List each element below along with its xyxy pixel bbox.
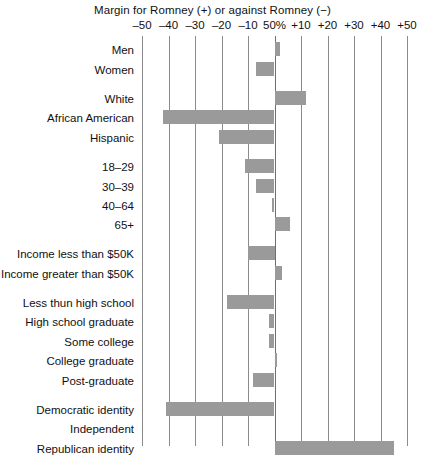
row-label: Post-graduate [62, 375, 134, 387]
row-label: Independent [70, 423, 134, 435]
bar [275, 441, 394, 455]
bar [275, 266, 283, 280]
bar [275, 217, 291, 231]
bar [227, 295, 275, 309]
chart-title: Margin for Romney (+) or against Romney … [0, 4, 425, 16]
row-label: 30–39 [102, 181, 134, 193]
bar [272, 198, 275, 212]
row-label: 40–64 [102, 200, 134, 212]
row-label: 18–29 [102, 161, 134, 173]
row-label: Women [95, 64, 134, 76]
row-label: African American [47, 112, 134, 124]
bar [275, 91, 307, 105]
plot-area [142, 36, 407, 446]
x-tick-label-30: +30 [344, 19, 364, 31]
row-label: Men [112, 44, 134, 56]
bar [256, 62, 275, 76]
gridline-50 [407, 36, 408, 446]
bar [269, 334, 274, 348]
row-label: Income less than $50K [17, 248, 134, 260]
bar [253, 373, 274, 387]
x-tick-label-10: +10 [291, 19, 311, 31]
bar [269, 314, 274, 328]
row-label: College graduate [46, 355, 134, 367]
bar [275, 42, 280, 56]
bar [163, 110, 274, 124]
x-tick-label--10: –10 [238, 19, 257, 31]
row-label: Less thun high school [23, 297, 134, 309]
bar [256, 179, 275, 193]
x-tick-label--20: –20 [212, 19, 231, 31]
bar [166, 402, 275, 416]
x-tick-label-40: +40 [371, 19, 391, 31]
row-label: Democratic identity [36, 404, 134, 416]
x-tick-label-center: 50% [263, 19, 286, 31]
row-label: High school graduate [25, 316, 134, 328]
row-label: Income greater than $50K [1, 268, 134, 280]
bar [245, 159, 274, 173]
row-label: Hispanic [90, 132, 134, 144]
x-tick-label-20: +20 [318, 19, 338, 31]
x-tick-label-50: +50 [397, 19, 417, 31]
bar [219, 130, 275, 144]
x-tick-label--30: –30 [185, 19, 204, 31]
row-label: Some college [64, 336, 134, 348]
bar-series [142, 36, 407, 446]
row-label: Republican identity [37, 443, 134, 455]
bar [275, 353, 278, 367]
x-tick-label--50: –50 [132, 19, 151, 31]
x-tick-label--40: –40 [159, 19, 178, 31]
x-axis-tick-labels: –50–40–30–20–1050%+10+20+30+40+50 [0, 19, 425, 34]
row-label: 65+ [114, 219, 134, 231]
row-label: White [105, 93, 134, 105]
bar [248, 246, 275, 260]
category-axis-labels: MenWomenWhiteAfrican AmericanHispanic18–… [0, 36, 138, 446]
